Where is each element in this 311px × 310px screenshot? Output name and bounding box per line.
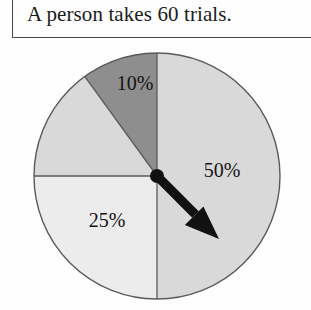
pie-chart-svg: 50%25%10% (0, 40, 311, 310)
pie-slice (34, 176, 157, 299)
pie-slice-label: 10% (117, 72, 154, 94)
prompt-box: A person takes 60 trials. (12, 0, 311, 38)
pie-slice-label: 50% (204, 159, 241, 181)
spinner-problem-figure: A person takes 60 trials. 50%25%10% (0, 0, 311, 310)
pointer-hub (150, 169, 164, 183)
pie-slice-label: 25% (89, 209, 126, 231)
prompt-text: A person takes 60 trials. (27, 0, 232, 28)
pie-chart: 50%25%10% (0, 40, 311, 310)
